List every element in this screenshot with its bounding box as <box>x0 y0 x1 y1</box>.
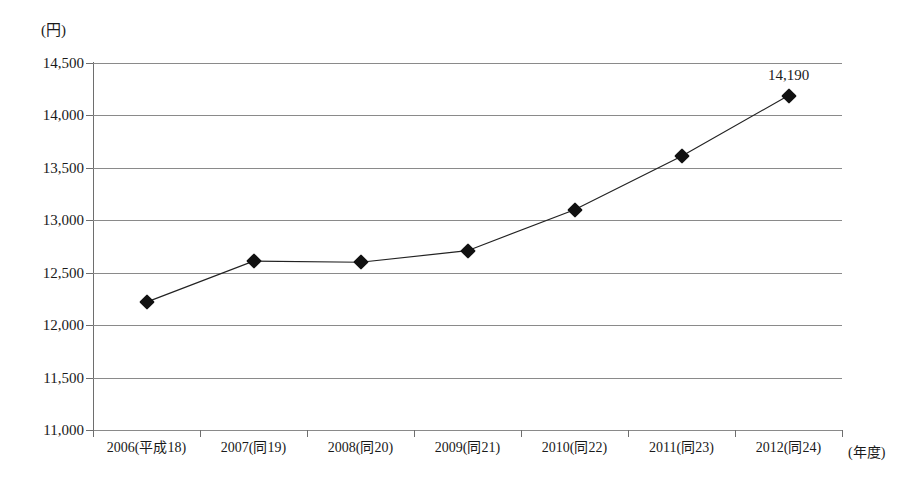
x-axis-tick <box>200 430 201 437</box>
grid-line <box>93 378 842 379</box>
x-axis-tick-label: 2007(同19) <box>200 441 307 455</box>
y-axis-tick <box>86 115 93 116</box>
y-axis-tick <box>86 325 93 326</box>
y-axis-tick-label: 12,000 <box>4 318 84 333</box>
y-axis-tick <box>86 63 93 64</box>
x-axis-unit-label: (年度) <box>848 441 885 461</box>
x-axis-tick-label: 2008(同20) <box>307 441 414 455</box>
grid-line <box>93 273 842 274</box>
y-axis-tick-label: 14,500 <box>4 56 84 71</box>
y-axis-tick <box>86 220 93 221</box>
x-axis-tick-label: 2010(同22) <box>521 441 628 455</box>
grid-line <box>93 63 842 64</box>
y-axis-tick-labels: 14,50014,00013,50013,00012,50012,00011,5… <box>0 0 84 487</box>
y-axis-tick-label: 14,000 <box>4 108 84 123</box>
x-axis-tick-label: 2011(同23) <box>628 441 735 455</box>
x-axis-tick <box>93 430 94 437</box>
y-axis-tick-label: 13,500 <box>4 161 84 176</box>
line-chart: (円) 14,50014,00013,50013,00012,50012,000… <box>0 0 921 487</box>
x-axis-tick <box>628 430 629 437</box>
x-axis-tick <box>414 430 415 437</box>
x-axis-tick-label: 2009(同21) <box>414 441 521 455</box>
y-axis-tick-label: 11,000 <box>4 423 84 438</box>
grid-line <box>93 168 842 169</box>
x-axis-tick <box>521 430 522 437</box>
y-axis-tick-label: 12,500 <box>4 266 84 281</box>
y-axis-tick <box>86 378 93 379</box>
data-point-value-label: 14,190 <box>768 67 809 84</box>
grid-line <box>93 325 842 326</box>
x-axis-tick <box>307 430 308 437</box>
x-axis-tick-label: 2006(平成18) <box>93 441 200 455</box>
y-axis-tick <box>86 430 93 431</box>
y-axis-tick-label: 13,000 <box>4 213 84 228</box>
y-axis-tick <box>86 168 93 169</box>
grid-line <box>93 115 842 116</box>
grid-line <box>93 220 842 221</box>
grid-line <box>93 430 842 431</box>
x-axis-tick <box>842 430 843 437</box>
x-axis-tick-label: 2012(同24) <box>735 441 842 455</box>
y-axis-tick-label: 11,500 <box>4 371 84 386</box>
y-axis-tick <box>86 273 93 274</box>
x-axis-tick <box>735 430 736 437</box>
